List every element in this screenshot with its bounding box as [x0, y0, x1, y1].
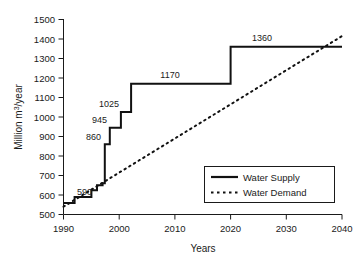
y-tick-label-700: 700 [39, 170, 55, 181]
x-tick-label-2030: 2030 [276, 223, 297, 234]
data-label-590: 590 [77, 187, 92, 197]
legend-label-water-supply[interactable]: Water Supply [243, 172, 300, 183]
y-tick-label-1500: 1500 [34, 14, 55, 25]
legend-label-water-demand[interactable]: Water Demand [243, 187, 307, 198]
data-label-1025: 1025 [99, 99, 119, 109]
chart-legend[interactable]: Water Supply Water Demand [205, 167, 335, 203]
y-tick-label-1200: 1200 [34, 73, 55, 84]
x-tick-label-2000: 2000 [109, 223, 130, 234]
y-tick-label-1300: 1300 [34, 53, 55, 64]
x-tick-label-2040: 2040 [331, 223, 352, 234]
x-tick-label-1990: 1990 [53, 223, 74, 234]
y-tick-label-600: 600 [39, 190, 55, 201]
data-label-860: 860 [86, 132, 101, 142]
y-axis-title: Million m3/year [13, 84, 24, 150]
x-axis-title: Years [190, 243, 215, 254]
y-axis-title-prefix: Million m [13, 110, 24, 149]
data-label-945: 945 [92, 115, 107, 125]
y-axis-title-suffix: /year [13, 84, 24, 107]
x-tick-label-2010: 2010 [164, 223, 185, 234]
y-tick-label-900: 900 [39, 131, 55, 142]
data-label-1170: 1170 [160, 70, 179, 80]
y-tick-label-1400: 1400 [34, 34, 55, 45]
y-tick-label-1100: 1100 [35, 92, 55, 103]
y-tick-label-800: 800 [39, 151, 55, 162]
x-tick-label-2020: 2020 [220, 223, 241, 234]
water-supply-demand-chart: 500 600 700 800 900 1000 1100 1200 1300 … [0, 0, 353, 263]
y-tick-label-1000: 1000 [34, 112, 55, 123]
data-label-1360: 1360 [252, 33, 272, 43]
chart-container: 500 600 700 800 900 1000 1100 1200 1300 … [0, 0, 353, 263]
y-tick-label-500: 500 [39, 209, 55, 220]
